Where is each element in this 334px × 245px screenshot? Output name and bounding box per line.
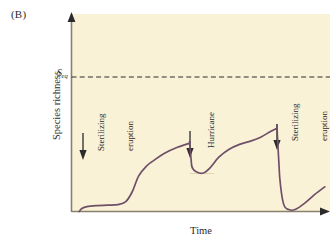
- event-arrow-sterilizing-eruption-1: [79, 133, 86, 160]
- species-richness-curve: [79, 125, 325, 212]
- y-axis: [68, 12, 76, 212]
- figure-panel-b: (B) Species richness Time Seq Sterilizin…: [0, 0, 334, 245]
- chart-canvas: [0, 0, 334, 245]
- x-axis: [72, 208, 331, 216]
